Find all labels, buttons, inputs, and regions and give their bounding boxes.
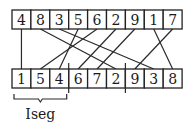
bracket-shape (14, 94, 67, 102)
top-row-cell: 4 (12, 10, 31, 29)
cell-value: 5 (74, 12, 83, 28)
cell-value: 7 (168, 12, 177, 28)
top-row-cell: 5 (69, 10, 88, 29)
bottom-row-cell: 3 (144, 69, 163, 88)
bottom-row-cell: 6 (69, 69, 88, 88)
bottom-row: 154672938 (12, 69, 182, 88)
top-row-cell: 3 (50, 10, 69, 29)
cell-value: 5 (36, 71, 45, 87)
bottom-row-cell: 4 (50, 69, 69, 88)
bottom-row-cell: 2 (107, 69, 126, 88)
iseg-label: Iseg (25, 106, 55, 122)
top-row: 483562917 (12, 10, 182, 29)
cell-value: 4 (17, 12, 26, 28)
connection-lines (21, 29, 172, 69)
connection-line (135, 29, 173, 69)
connection-line (97, 29, 135, 69)
bottom-row-cell: 7 (88, 69, 107, 88)
bottom-row-cell: 1 (12, 69, 31, 88)
connection-line (154, 29, 173, 69)
bottom-row-cell: 8 (163, 69, 182, 88)
cell-value: 2 (111, 12, 120, 28)
cell-value: 6 (93, 12, 102, 28)
cell-value: 1 (149, 12, 158, 28)
cell-value: 4 (55, 71, 64, 87)
cell-value: 3 (55, 12, 64, 28)
cell-value: 2 (111, 71, 120, 87)
connection-line (78, 29, 116, 69)
iseg-bracket: Iseg (14, 94, 67, 122)
cell-value: 6 (74, 71, 83, 87)
cell-value: 8 (36, 12, 45, 28)
bottom-row-cell: 5 (31, 69, 50, 88)
top-row-cell: 6 (88, 10, 107, 29)
connection-line (59, 29, 154, 69)
top-row-cell: 8 (31, 10, 50, 29)
cell-value: 7 (93, 71, 102, 87)
connection-line (40, 29, 116, 69)
top-row-cell: 2 (107, 10, 126, 29)
cell-value: 9 (130, 71, 139, 87)
cell-value: 8 (168, 71, 177, 87)
cell-value: 3 (149, 71, 158, 87)
cell-value: 1 (17, 71, 26, 87)
top-row-cell: 9 (125, 10, 144, 29)
top-row-cell: 1 (144, 10, 163, 29)
permutation-diagram: 483562917 154672938 Iseg (0, 0, 193, 128)
cell-value: 9 (130, 12, 139, 28)
bottom-row-cell: 9 (125, 69, 144, 88)
top-row-cell: 7 (163, 10, 182, 29)
